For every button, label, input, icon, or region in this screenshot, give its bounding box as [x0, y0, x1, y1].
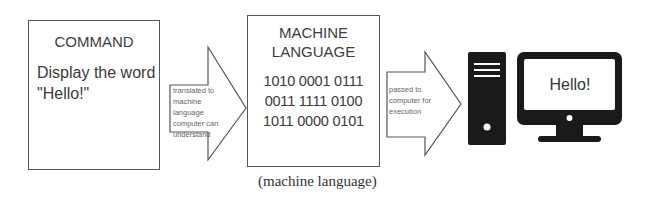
arrow2-label: passed to computer for execution	[389, 84, 444, 117]
screen-text: Hello!	[533, 76, 607, 94]
arrow2-label-line: passed to	[389, 84, 444, 95]
arrow2-label-line: computer for	[389, 95, 444, 106]
monitor-icon	[516, 51, 624, 144]
diagram: COMMAND Display the word "Hello!" transl…	[0, 0, 647, 205]
caption-text: (machine language)	[258, 173, 377, 190]
computer-tower-icon	[468, 52, 508, 146]
arrow2-label-line: execution	[389, 106, 444, 117]
